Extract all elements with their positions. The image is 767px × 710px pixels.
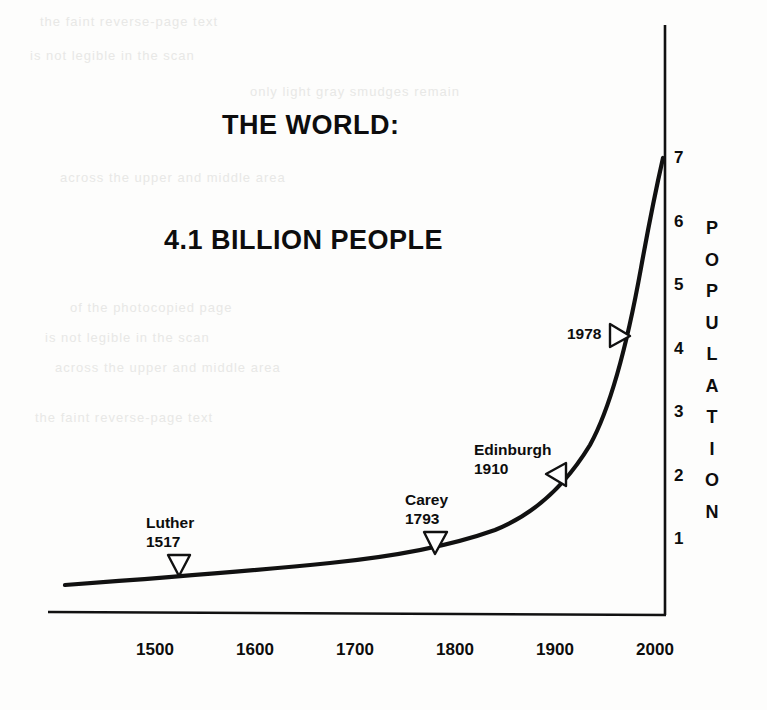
y-axis-title-letter: P [700,213,724,245]
y-tick-6: 6 [674,212,694,232]
annotation-1978: 1978 [567,324,601,343]
y-tick-5: 5 [674,275,694,295]
x-tick-1800: 1800 [425,640,485,660]
page-title: THE WORLD: [222,110,399,141]
x-tick-1700: 1700 [325,640,385,660]
annotation-luther: Luther 1517 [146,513,194,551]
y-tick-3: 3 [674,402,694,422]
annotation-carey-year: 1793 [405,509,448,528]
y-axis-title-letter: O [700,245,724,277]
y-axis-title-letter: L [700,339,724,371]
annotation-carey-name: Carey [405,490,448,509]
y-axis-title-letter: T [700,402,724,434]
chart-page: the faint reverse-page text is not legib… [0,0,767,710]
x-tick-1500: 1500 [125,640,185,660]
page-subtitle: 4.1 BILLION PEOPLE [164,225,443,256]
y-axis-title-letter: O [700,465,724,497]
y-tick-1: 1 [674,529,694,549]
annotation-edinburgh-name: Edinburgh [474,440,552,459]
population-curve-plot [0,0,767,710]
y-axis-title-letter: A [700,371,724,403]
annotation-luther-name: Luther [146,513,194,532]
annotation-luther-year: 1517 [146,532,194,551]
y-axis-title-letter: U [700,308,724,340]
y-axis-title: P O P U L A T I O N [700,213,724,528]
y-tick-2: 2 [674,466,694,486]
marker-triangle-luther [168,555,190,576]
y-axis-title-letter: N [700,497,724,529]
y-tick-4: 4 [674,339,694,359]
y-axis-title-letter: I [700,434,724,466]
annotation-edinburgh: Edinburgh 1910 [474,440,552,478]
annotation-1978-year: 1978 [567,325,601,342]
x-tick-1900: 1900 [525,640,585,660]
x-axis-line [48,612,666,615]
y-tick-7: 7 [674,148,694,168]
x-tick-1600: 1600 [225,640,285,660]
x-tick-2000: 2000 [625,640,685,660]
y-axis-title-letter: P [700,276,724,308]
annotation-carey: Carey 1793 [405,490,448,528]
annotation-edinburgh-year: 1910 [474,459,552,478]
